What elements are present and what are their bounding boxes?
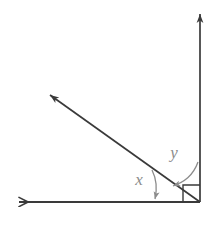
angle-label-x: x: [134, 170, 143, 189]
angle-diagram-figure: y x: [0, 0, 218, 228]
angle-label-y: y: [168, 143, 178, 162]
x-angle-pointer-arrow: [152, 170, 156, 199]
y-angle-pointer-arrow: [173, 162, 198, 186]
diagram-svg: y x: [0, 0, 218, 228]
